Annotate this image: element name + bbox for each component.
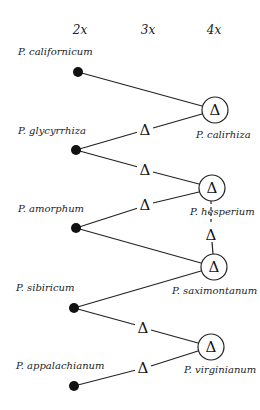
header-4x: 4x [206,23,222,37]
triploid-delta-icon: Δ [140,196,151,214]
edge-amorphum-saximontanum [76,228,201,263]
label-californicum: P. californicum [17,46,93,57]
label-hesperium: P. hesperium [189,206,255,217]
delta-icon: Δ [209,258,220,276]
label-saximontanum: P. saximontanum [171,285,257,296]
edge-appalachianum-t5 [74,370,136,386]
delta-icon: Δ [210,101,221,119]
edge-glycyrrhiza-t2 [76,150,138,167]
edges [74,72,213,386]
edge-sibiricum-t4 [74,308,136,325]
polypodium-reticulogram: 2x 3x 4x P. californicum P. glycyrrhiza … [0,0,260,410]
triploid-delta-icon: Δ [138,319,149,337]
edge-t1-calirhiza [153,114,202,128]
diploid-dot-californicum [73,67,83,77]
edge-t3-hesperium [153,192,199,203]
triploid-delta-icon: Δ [140,161,151,179]
edge-amorphum-t3 [76,208,138,228]
delta-icon: Δ [206,338,217,356]
diploid-dot-amorphum [71,223,81,233]
edge-californicum-calirhiza [78,72,202,106]
delta-icon: Δ [207,179,218,197]
label-virginianum: P. virginianum [183,364,256,375]
diploid-dot-glycyrrhiza [71,145,81,155]
label-amorphum: P. amorphum [17,203,84,214]
diploid-nodes: P. californicum P. glycyrrhiza P. amorph… [15,46,105,391]
label-appalachianum: P. appalachianum [15,360,105,371]
triploid-delta-icon: Δ [140,121,151,139]
header-2x: 2x [72,23,88,37]
ploidy-headers: 2x 3x 4x [72,23,222,37]
triploid-delta-icon: Δ [206,226,217,244]
diploid-dot-sibiricum [69,303,79,313]
edge-t4-virginianum [151,330,198,343]
label-sibiricum: P. sibiricum [15,282,75,293]
header-3x: 3x [141,23,156,37]
triploid-delta-icon: Δ [138,359,149,377]
diploid-dot-appalachianum [69,381,79,391]
label-glycyrrhiza: P. glycyrrhiza [17,125,86,136]
edge-t2-hesperium [153,172,199,184]
label-calirhiza: P. calirhiza [195,129,251,140]
